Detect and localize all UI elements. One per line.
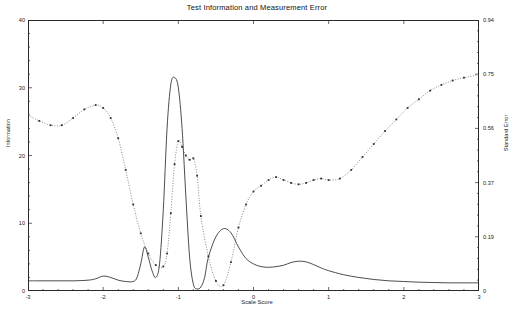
data-point-marker (373, 143, 375, 145)
data-point-marker (230, 261, 232, 263)
data-point-marker (174, 163, 176, 165)
data-point-marker (95, 104, 97, 106)
data-point-marker (83, 108, 85, 110)
data-point-marker (208, 256, 210, 258)
data-point-marker (238, 227, 240, 229)
data-point-marker (147, 253, 149, 255)
y-right-tick-0.37: 0.37 (483, 180, 509, 186)
series-line-information (28, 77, 479, 289)
data-point-marker (305, 182, 307, 184)
data-point-marker (196, 175, 198, 177)
data-point-marker (452, 80, 454, 82)
data-point-marker (350, 169, 352, 171)
plot-canvas (28, 20, 479, 291)
data-point-marker (407, 107, 409, 109)
data-point-marker (463, 77, 465, 79)
data-point-marker (170, 212, 172, 214)
data-point-marker (253, 191, 255, 193)
data-point-marker (328, 179, 330, 181)
series-markers-standard-error (28, 74, 479, 286)
y-right-tick-0.75: 0.75 (483, 71, 509, 77)
data-point-marker (223, 284, 225, 286)
data-point-marker (166, 253, 168, 255)
data-point-marker (429, 90, 431, 92)
y-axis-left-title: Information (5, 103, 11, 163)
data-point-marker (132, 204, 134, 206)
data-point-marker (110, 117, 112, 119)
data-point-marker (117, 137, 119, 139)
axis-tick-marks (28, 20, 479, 291)
data-point-marker (395, 119, 397, 121)
data-point-marker (125, 169, 127, 171)
y-axis-right-title: Standard Error (503, 98, 509, 168)
data-point-marker (245, 204, 247, 206)
data-point-marker (384, 130, 386, 132)
data-point-marker (189, 159, 191, 161)
data-point-marker (28, 114, 29, 116)
data-point-marker (185, 155, 187, 157)
data-point-marker (72, 117, 74, 119)
data-point-marker (50, 124, 52, 126)
data-point-marker (268, 179, 270, 181)
chart-root: Test Information and Measurement Error 0… (0, 0, 514, 315)
x-axis-title: Scale Score (0, 299, 514, 305)
data-point-marker (418, 98, 420, 100)
data-point-marker (140, 232, 142, 234)
data-point-marker (478, 74, 479, 76)
series-line-standard-error (28, 75, 479, 287)
data-point-marker (339, 178, 341, 180)
data-point-marker (362, 156, 364, 158)
y-right-tick-0.19: 0.19 (483, 234, 509, 240)
data-point-marker (260, 185, 262, 187)
chart-title: Test Information and Measurement Error (0, 3, 514, 12)
y-right-tick-0.94: 0.94 (483, 17, 509, 23)
y-left-tick-30: 30 (6, 85, 25, 91)
data-point-marker (290, 182, 292, 184)
data-point-marker (215, 280, 217, 282)
data-point-marker (192, 157, 194, 159)
data-point-marker (298, 183, 300, 185)
y-left-tick-10: 10 (6, 220, 25, 226)
data-point-marker (102, 107, 104, 109)
data-point-marker (162, 266, 164, 268)
data-point-marker (441, 84, 443, 86)
data-point-marker (181, 146, 183, 148)
data-point-marker (200, 215, 202, 217)
data-point-marker (155, 264, 157, 266)
data-point-marker (275, 176, 277, 178)
data-point-marker (283, 179, 285, 181)
data-point-marker (320, 178, 322, 180)
data-point-marker (38, 120, 40, 122)
data-point-marker (177, 140, 179, 142)
y-left-tick-40: 40 (6, 17, 25, 23)
data-point-marker (61, 124, 63, 126)
data-point-marker (313, 179, 315, 181)
